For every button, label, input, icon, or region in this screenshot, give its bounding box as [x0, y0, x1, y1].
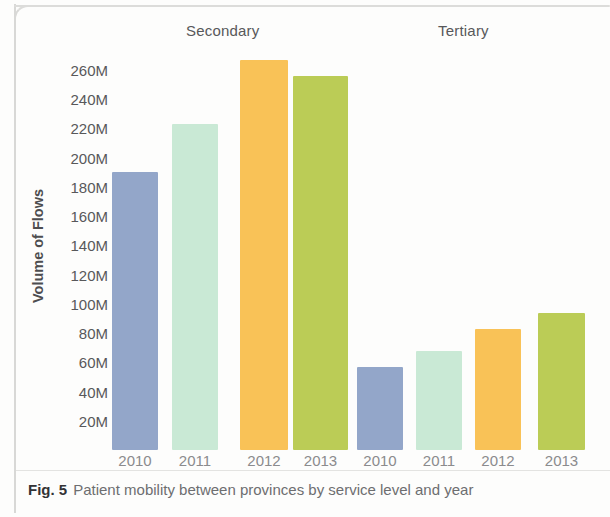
bar-fill [112, 172, 158, 450]
bar-secondary-2013[interactable] [293, 76, 348, 450]
bar-fill [172, 124, 218, 450]
bar-fill [416, 351, 462, 450]
bar-fill [475, 329, 521, 450]
figure-caption-text: Patient mobility between provinces by se… [73, 481, 473, 498]
bar-secondary-2010[interactable] [112, 172, 158, 450]
x-axis-tick-tertiary-2013: 2013 [538, 452, 585, 469]
x-axis-tick-tertiary-2010: 2010 [357, 452, 403, 469]
figure-page: Secondary Tertiary Volume of Flows 260M2… [0, 0, 610, 517]
x-axis-tick-tertiary-2012: 2012 [475, 452, 521, 469]
bar-secondary-2011[interactable] [172, 124, 218, 450]
x-axis-tick-secondary-2012: 2012 [240, 452, 288, 469]
bar-tertiary-2011[interactable] [416, 351, 462, 450]
bar-secondary-2012[interactable] [240, 60, 288, 450]
x-axis-tick-tertiary-2011: 2011 [416, 452, 462, 469]
caption-divider [16, 470, 610, 471]
bar-fill [357, 367, 403, 450]
figure-caption-label: Fig. 5 [28, 481, 67, 498]
bar-fill [293, 76, 348, 450]
bar-fill [538, 313, 585, 450]
x-axis-tick-secondary-2011: 2011 [172, 452, 218, 469]
plot-area: 20102011201220132010201120122013 [0, 0, 610, 470]
bar-fill [240, 60, 288, 450]
x-axis-tick-secondary-2010: 2010 [112, 452, 158, 469]
x-axis-tick-secondary-2013: 2013 [293, 452, 348, 469]
figure-caption: Fig. 5Patient mobility between provinces… [28, 481, 600, 498]
bar-tertiary-2013[interactable] [538, 313, 585, 450]
bar-tertiary-2010[interactable] [357, 367, 403, 450]
bar-chart: Secondary Tertiary Volume of Flows 260M2… [0, 0, 610, 470]
bar-tertiary-2012[interactable] [475, 329, 521, 450]
